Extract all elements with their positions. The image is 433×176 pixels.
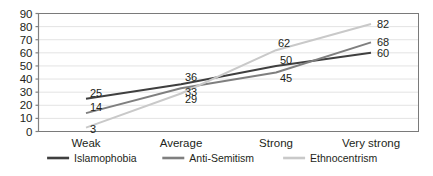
value-label-islamophobia-weak: 25 [90, 87, 102, 99]
value-label-islamophobia-average: 36 [185, 71, 197, 83]
category-label-average: Average [160, 137, 203, 149]
legend-label-islamophobia: Islamophobia [74, 152, 137, 164]
value-label-ethnocentrism-average: 29 [185, 93, 197, 105]
value-label-ethnocentrism-strong: 62 [278, 37, 290, 49]
value-label-anti-semitism-weak: 14 [90, 101, 102, 113]
category-label-strong: Strong [259, 137, 293, 149]
y-tick-label-50: 50 [20, 60, 33, 72]
chart-legend: IslamophobiaAnti-SemitismEthnocentrism [47, 152, 377, 164]
y-tick-label-20: 20 [20, 99, 33, 111]
value-label-ethnocentrism-weak: 3 [90, 123, 96, 135]
y-tick-label-70: 70 [20, 34, 33, 46]
value-label-islamophobia-strong: 50 [280, 54, 292, 66]
y-tick-label-60: 60 [20, 47, 33, 59]
y-tick-label-0: 0 [26, 126, 32, 138]
value-label-islamophobia-very-strong: 60 [377, 47, 389, 59]
y-tick-label-90: 90 [20, 8, 33, 20]
legend-label-ethnocentrism: Ethnocentrism [310, 152, 377, 164]
category-label-very-strong: Very strong [342, 137, 400, 149]
chart-canvas: 0102030405060708090 WeakAverageStrongVer… [0, 0, 433, 176]
y-tick-label-40: 40 [20, 73, 33, 85]
line-chart: 0102030405060708090 WeakAverageStrongVer… [0, 0, 433, 176]
y-axis-tick-labels: 0102030405060708090 [20, 8, 33, 138]
y-tick-label-30: 30 [20, 86, 33, 98]
value-label-ethnocentrism-very-strong: 82 [377, 18, 389, 30]
value-label-anti-semitism-very-strong: 68 [377, 36, 389, 48]
category-label-weak: Weak [71, 137, 100, 149]
legend-label-anti-semitism: Anti-Semitism [189, 152, 254, 164]
value-label-anti-semitism-strong: 45 [280, 72, 292, 84]
y-tick-label-80: 80 [20, 21, 33, 33]
y-tick-label-10: 10 [20, 112, 33, 124]
